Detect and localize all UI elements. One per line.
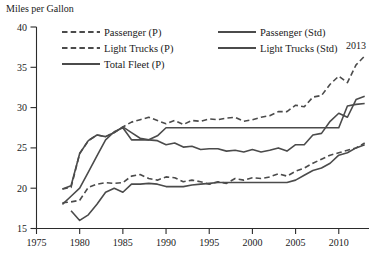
x-tick-label: 1975 [27,237,47,248]
legend-label: Passenger (P) [104,27,162,39]
y-tick-label: 30 [17,102,27,113]
chart-annotations: 2013 [346,40,366,51]
chart-legend: Passenger (P)Light Trucks (P)Total Fleet… [62,27,338,71]
x-tick-label: 2010 [329,237,349,248]
x-tick-label: 1995 [199,237,219,248]
y-tick-label: 25 [17,142,27,153]
x-axis-ticks: 19751980198519901995200020052010 [27,229,349,249]
chart-canvas: Miles per Gallon 152025303540 1975198019… [0,0,374,254]
series-line-light-trucks-std [71,145,365,221]
annotation-label: 2013 [346,40,366,51]
x-tick-label: 1985 [113,237,133,248]
y-axis-ticks: 152025303540 [17,22,37,235]
legend-label: Total Fleet (P) [104,59,165,71]
series-line-light-trucks-p [62,143,364,203]
series-line-total-fleet-p [62,96,364,189]
mpg-line-chart: Miles per Gallon 152025303540 1975198019… [0,0,374,254]
y-tick-label: 20 [17,183,27,194]
legend-label: Passenger (Std) [260,27,326,39]
series-lines [62,56,364,220]
legend-label: Light Trucks (Std) [260,43,338,55]
legend-label: Light Trucks (P) [104,43,174,55]
y-tick-label: 40 [17,22,27,33]
x-tick-label: 2005 [286,237,306,248]
x-tick-label: 2000 [242,237,262,248]
y-tick-label: 35 [17,62,27,73]
y-axis-title: Miles per Gallon [6,3,74,14]
x-tick-label: 1980 [70,237,90,248]
y-tick-label: 15 [17,223,27,234]
x-tick-label: 1990 [156,237,176,248]
